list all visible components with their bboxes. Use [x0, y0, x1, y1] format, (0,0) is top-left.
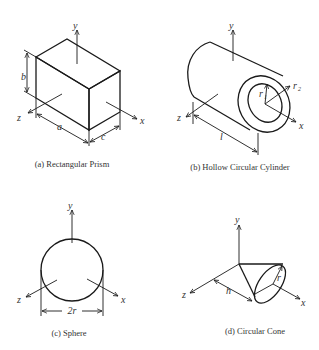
cylinder-r2-arrow: [265, 86, 290, 104]
prism-b-extension-top: [24, 50, 36, 57]
cone-caption: (d) Circular Cone: [225, 326, 285, 336]
cylinder-caption: (b) Hollow Circular Cylinder: [190, 162, 290, 172]
cylinder-l-dimension: [194, 115, 257, 152]
sphere-y-label: y: [67, 200, 73, 211]
cylinder-bottom-edge: [194, 97, 250, 130]
cylinder-z-axis: [186, 94, 218, 117]
prism-c-label: c: [101, 131, 106, 142]
prism-b-extension-bottom: [24, 91, 36, 98]
sphere-caption: (c) Sphere: [51, 328, 86, 338]
cylinder-r2-subscript: 2: [298, 86, 301, 92]
cylinder-l-label: l: [220, 131, 223, 142]
prism-y-label: y: [72, 20, 78, 31]
rectangular-prism-figure: y z x b a c (a) Rectangular Prism: [16, 20, 145, 169]
cone-z-axis: [190, 264, 239, 293]
prism-a-dimension: [37, 114, 88, 143]
prism-right-face: [89, 71, 120, 130]
cylinder-back-arc: [188, 42, 210, 97]
prism-a-label: a: [57, 121, 62, 132]
cylinder-r2-label: r: [293, 80, 297, 91]
cone-x-axis: [273, 284, 300, 299]
circular-cone-figure: y z x h r (d) Circular Cone: [181, 214, 306, 336]
cone-base-radius-line: [255, 284, 273, 294]
cone-y-label: y: [234, 214, 240, 225]
cylinder-x-axis: [265, 104, 296, 122]
sphere-figure: y z x 2r (c) Sphere: [16, 200, 126, 338]
cylinder-r1-label: r: [259, 88, 263, 99]
prism-caption: (a) Rectangular Prism: [35, 159, 110, 169]
cone-h-label: h: [226, 285, 231, 296]
hollow-cylinder-figure: y z x l r 1 r 2 (b) Hollow Circular Cyli…: [176, 20, 304, 172]
cylinder-x-label: x: [298, 120, 304, 131]
cone-x-label: x: [300, 297, 306, 308]
cone-bottom-edge: [239, 264, 255, 297]
cylinder-outer-ellipse: [228, 67, 299, 142]
cylinder-top-edge: [210, 42, 283, 76]
sphere-x-label: x: [120, 294, 126, 305]
cone-base-ellipse: [248, 260, 291, 309]
cone-h-dimension: [214, 280, 252, 301]
geometry-figure: y z x b a c (a) Rectangular Prism y z x …: [0, 0, 319, 350]
cylinder-r1-subscript: 1: [264, 94, 267, 100]
sphere-outline: [41, 239, 103, 301]
prism-front-face: [36, 57, 89, 130]
cylinder-z-label: z: [176, 112, 181, 123]
prism-b-label: b: [21, 71, 26, 82]
sphere-z-label: z: [16, 294, 21, 305]
sphere-diameter-label: 2r: [68, 305, 77, 316]
cone-z-label: z: [181, 289, 186, 300]
prism-x-label: x: [139, 115, 145, 126]
prism-z-label: z: [16, 112, 21, 123]
cylinder-y-label: y: [228, 20, 234, 31]
cone-r-label: r: [277, 272, 281, 283]
prism-x-axis: [106, 102, 137, 119]
